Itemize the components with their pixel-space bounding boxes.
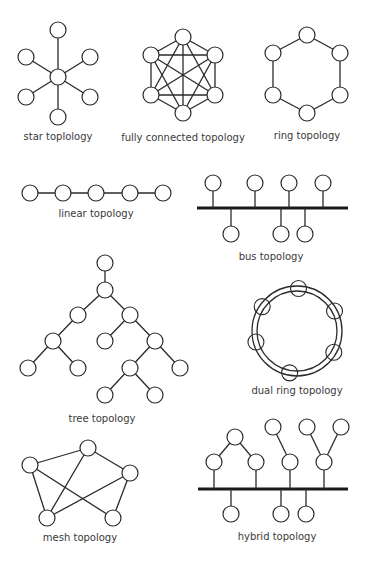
tree-node — [97, 333, 113, 349]
tree-topology — [20, 255, 188, 403]
ring-node — [299, 27, 315, 43]
bus-node — [247, 175, 263, 191]
mesh-node — [22, 457, 38, 473]
tree-node — [147, 387, 163, 403]
dual-ring-node — [290, 281, 306, 297]
linear-topology-label: linear topology — [58, 208, 133, 219]
ring-node — [265, 45, 281, 61]
tree-node — [97, 387, 113, 403]
hybrid-node — [316, 454, 332, 470]
bus-node — [297, 226, 313, 242]
ring-topology-label: ring topology — [274, 130, 341, 141]
hybrid-topology — [198, 419, 349, 522]
tree-node — [20, 360, 36, 376]
hybrid-node — [282, 454, 298, 470]
bus-node — [223, 226, 239, 242]
star-leaf-node — [18, 89, 34, 105]
tree-node — [147, 333, 163, 349]
linear-node — [22, 185, 38, 201]
full-node — [175, 29, 191, 45]
tree-node — [122, 307, 138, 323]
tree-topology-label: tree topology — [69, 413, 136, 424]
linear-topology — [22, 185, 171, 201]
ring-node — [332, 45, 348, 61]
bus-topology — [197, 175, 348, 242]
ring-node — [332, 87, 348, 103]
ring-topology — [265, 27, 348, 121]
bus-node — [281, 175, 297, 191]
mesh-node — [80, 440, 96, 456]
full-node — [207, 87, 223, 103]
tree-node — [172, 360, 188, 376]
star-topology-label: star toplology — [24, 131, 93, 142]
tree-node — [97, 282, 113, 298]
dual-ring-node — [282, 365, 298, 381]
linear-node — [88, 185, 104, 201]
hybrid-topology-label: hybrid topology — [238, 531, 317, 542]
hybrid-node — [333, 419, 349, 435]
tree-node — [70, 307, 86, 323]
tree-node — [97, 255, 113, 271]
tree-node — [45, 333, 61, 349]
star-leaf-node — [50, 109, 66, 125]
mesh-topology-label: mesh topology — [43, 532, 117, 543]
hybrid-node — [273, 506, 289, 522]
dual-ring-node — [248, 334, 264, 350]
bus-node — [315, 175, 331, 191]
hybrid-node — [206, 454, 222, 470]
star-leaf-node — [50, 22, 66, 38]
tree-node — [70, 360, 86, 376]
mesh-node — [39, 510, 55, 526]
hybrid-node — [227, 429, 243, 445]
mesh-node — [105, 510, 121, 526]
hybrid-node — [298, 506, 314, 522]
full-node — [143, 87, 159, 103]
star-leaf-node — [82, 49, 98, 65]
tree-node — [122, 360, 138, 376]
mesh-link — [30, 465, 113, 518]
full-node — [207, 47, 223, 63]
fully-connected-topology-label: fully connected topology — [121, 132, 245, 143]
topology-diagram-canvas: star toplology fully connected topology … — [0, 0, 370, 571]
star-leaf-node — [18, 49, 34, 65]
star-leaf-node — [82, 89, 98, 105]
mesh-topology — [22, 440, 138, 526]
star-hub-node — [50, 69, 66, 85]
linear-node — [122, 185, 138, 201]
bus-node — [273, 226, 289, 242]
hybrid-node — [299, 419, 315, 435]
full-node — [175, 105, 191, 121]
bus-topology-label: bus topology — [239, 251, 304, 262]
fully-connected-topology — [143, 29, 223, 121]
linear-node — [55, 185, 71, 201]
hybrid-node — [265, 419, 281, 435]
hybrid-node — [248, 454, 264, 470]
full-node — [143, 47, 159, 63]
hybrid-node — [223, 506, 239, 522]
linear-node — [155, 185, 171, 201]
mesh-node — [122, 465, 138, 481]
dual-ring-topology — [248, 281, 343, 381]
bus-node — [205, 175, 221, 191]
ring-node — [265, 87, 281, 103]
star-topology — [18, 22, 98, 125]
dual-ring-topology-label: dual ring topology — [251, 385, 342, 396]
ring-node — [299, 105, 315, 121]
